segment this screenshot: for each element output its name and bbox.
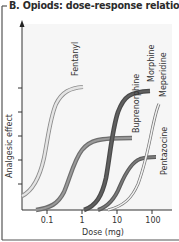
- x-tick-label-10: 10: [112, 216, 122, 225]
- label-fentanyl: Fentanyl: [71, 42, 80, 76]
- x-tick-label-0.1: 0.1: [41, 216, 54, 225]
- label-morphine: Morphine: [147, 44, 156, 82]
- label-buprenorphine: Buprenorphine: [132, 74, 141, 133]
- dose-response-chart: Fentanyl Buprenorphine Morphine Meperidi…: [0, 0, 179, 242]
- panel-title: B. Opiods: dose-response relationship: [7, 0, 179, 12]
- label-meperidine: Meperidine: [159, 52, 168, 97]
- y-axis-arrow-icon: [20, 20, 25, 27]
- y-ticks: [18, 88, 22, 184]
- x-tick-label-1: 1: [79, 216, 84, 225]
- chart-panel: Fentanyl Buprenorphine Morphine Meperidi…: [0, 0, 179, 242]
- x-axis-label: Dose (mg): [82, 228, 124, 237]
- label-pentazocine: Pentazocine: [160, 127, 169, 175]
- y-axis-label: Analgesic effect: [5, 114, 14, 178]
- x-tick-label-100: 100: [145, 216, 160, 225]
